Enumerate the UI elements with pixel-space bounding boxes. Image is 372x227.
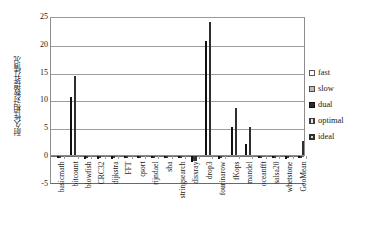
- bar-chart: 耐久性相对数提升情况 2520151050-5 basicmathbitcoun…: [0, 0, 372, 226]
- bar-ideal: [302, 141, 304, 155]
- legend-item-optimal[interactable]: optimal: [309, 114, 344, 127]
- bar-ideal: [209, 22, 211, 155]
- swatch-crosshatch-icon: [309, 134, 315, 140]
- y-axis-tick-label: 20: [28, 41, 48, 49]
- x-axis-category-label: salsa20: [271, 162, 280, 227]
- swatch-hollow-icon: [309, 70, 315, 76]
- legend-label: ideal: [318, 132, 334, 141]
- y-axis-tick-label: 15: [28, 69, 48, 77]
- x-axis-category-label: FFT: [124, 162, 133, 227]
- y-axis-tick-label: 10: [28, 96, 48, 104]
- swatch-black-icon: [309, 102, 315, 108]
- y-axis-tick-label: 5: [28, 124, 48, 132]
- swatch-vertical-hatch-icon: [309, 118, 315, 124]
- x-axis-category-label: fourinarow: [218, 162, 227, 227]
- x-axis-category-labels: basicmathbitcountblowfishCRC32dijkstraFF…: [50, 157, 305, 226]
- bar-dual: [70, 97, 72, 155]
- plot-area: [50, 17, 305, 156]
- x-axis-category-label: qsort: [137, 162, 146, 227]
- x-axis-category-label: rijndael: [151, 162, 160, 227]
- bar-ideal: [249, 127, 251, 155]
- y-axis-tick-label: 25: [28, 13, 48, 21]
- legend-label: optimal: [318, 116, 344, 125]
- y-axis-tick-label: -5: [28, 180, 48, 188]
- x-axis-category-label: disxray: [191, 162, 200, 227]
- y-axis-title: 耐久性相对数提升情况: [14, 36, 28, 156]
- bar-ideal: [235, 108, 237, 155]
- bar-ideal: [74, 76, 76, 156]
- legend-label: slow: [318, 84, 334, 93]
- legend-item-slow[interactable]: slow: [309, 82, 334, 95]
- y-axis-tick-labels: 2520151050-5: [28, 0, 48, 226]
- legend-item-ideal[interactable]: ideal: [309, 130, 334, 143]
- x-axis-tickmark: [306, 156, 307, 159]
- gridline: [51, 46, 304, 47]
- x-axis-category-label: basicmath: [57, 162, 66, 227]
- swatch-gray-icon: [309, 86, 315, 92]
- x-axis-category-label: dijkstra: [110, 162, 119, 227]
- x-axis-category-label: whetstone: [285, 162, 294, 227]
- legend-label: fast: [318, 68, 330, 77]
- legend-label: dual: [318, 100, 332, 109]
- bar-dual: [231, 127, 233, 155]
- x-axis-category-label: oceanfft: [258, 162, 267, 227]
- legend-item-dual[interactable]: dual: [309, 98, 332, 111]
- x-axis-category-label: bitcount: [70, 162, 79, 227]
- x-axis-category-label: mandel: [245, 162, 254, 227]
- x-axis-category-label: stringsearch: [178, 162, 187, 227]
- gridline: [51, 74, 304, 75]
- gridline: [51, 129, 304, 130]
- bar-dual: [205, 41, 207, 155]
- legend-item-fast[interactable]: fast: [309, 66, 330, 79]
- gridline: [51, 101, 304, 102]
- x-axis-category-label: fKops: [231, 162, 240, 227]
- legend: fastslowdualoptimalideal: [309, 66, 369, 148]
- x-axis-category-label: drop3: [204, 162, 213, 227]
- x-axis-category-label: sha: [164, 162, 173, 227]
- x-axis-category-label: GeoMean: [298, 162, 307, 227]
- x-axis-category-label: blowfish: [84, 162, 93, 227]
- y-axis-tick-label: 0: [28, 152, 48, 160]
- x-axis-category-label: CRC32: [97, 162, 106, 227]
- bar-dual: [245, 144, 247, 155]
